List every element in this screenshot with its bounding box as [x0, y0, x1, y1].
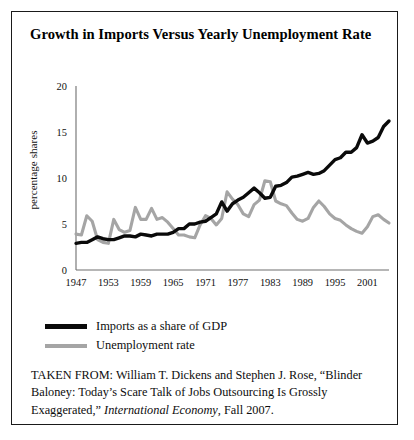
x-tick-label: 1977 — [228, 277, 249, 288]
source-text-part2: , Fall 2007. — [218, 403, 274, 417]
x-tick-label: 1953 — [98, 277, 119, 288]
x-tick-label: 1971 — [195, 277, 216, 288]
chart-legend: Imports as a share of GDP Unemployment r… — [45, 318, 375, 356]
legend-item-imports: Imports as a share of GDP — [45, 318, 375, 335]
y-tick-label: 20 — [57, 81, 67, 92]
source-attribution: TAKEN FROM: William T. Dickens and Steph… — [31, 367, 381, 419]
legend-label-imports: Imports as a share of GDP — [96, 320, 227, 332]
source-publication: International Economy — [104, 403, 218, 417]
y-axis-title: percentage shares — [27, 105, 39, 235]
y-tick-label: 15 — [57, 127, 67, 138]
legend-label-unemployment: Unemployment rate — [96, 339, 195, 351]
x-tick-label: 1965 — [163, 277, 184, 288]
series-line — [76, 181, 389, 244]
figure-frame: Growth in Imports Versus Yearly Unemploy… — [11, 11, 398, 425]
y-tick-label: 10 — [57, 173, 67, 184]
x-tick-label: 2001 — [357, 277, 378, 288]
x-tick-label: 1959 — [130, 277, 151, 288]
legend-swatch-unemployment — [45, 344, 87, 348]
legend-swatch-imports — [45, 324, 87, 329]
y-tick-label: 0 — [62, 265, 67, 276]
line-chart-svg: 0510152019471953195919651971197719831989… — [12, 52, 397, 302]
chart-plot-area: percentage shares 0510152019471953195919… — [12, 52, 397, 302]
source-prefix: TAKEN FROM: — [31, 368, 116, 382]
x-tick-label: 1989 — [292, 277, 313, 288]
series-line — [76, 121, 389, 243]
legend-item-unemployment: Unemployment rate — [45, 337, 375, 354]
x-tick-label: 1983 — [260, 277, 281, 288]
y-tick-label: 5 — [62, 219, 67, 230]
x-tick-label: 1947 — [66, 277, 87, 288]
x-tick-label: 1995 — [325, 277, 346, 288]
chart-title: Growth in Imports Versus Yearly Unemploy… — [30, 26, 380, 42]
